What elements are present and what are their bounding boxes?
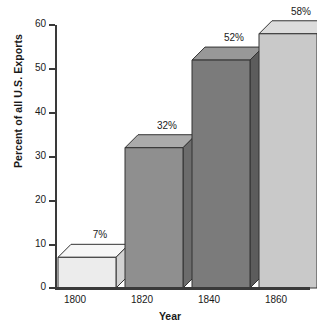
x-tick-label-1840: 1840 — [179, 294, 239, 305]
data-label-1860: 58% — [276, 6, 317, 17]
x-tick-label-1800: 1800 — [45, 294, 105, 305]
bar-1820 — [125, 135, 196, 288]
bars-layer — [0, 0, 317, 331]
data-label-1800: 7% — [75, 229, 125, 240]
bar-1840 — [192, 47, 263, 288]
x-tick-label-1860: 1860 — [246, 294, 306, 305]
x-axis-line — [55, 287, 310, 290]
bar-1800 — [58, 244, 129, 288]
bar-1860 — [259, 21, 317, 288]
data-label-1840: 52% — [209, 32, 259, 43]
bar-chart: Percent of all U.S. Exports 60 50 40 30 … — [0, 0, 317, 331]
x-axis-title: Year — [45, 310, 295, 322]
data-label-1820: 32% — [142, 120, 192, 131]
x-tick-label-1820: 1820 — [112, 294, 172, 305]
